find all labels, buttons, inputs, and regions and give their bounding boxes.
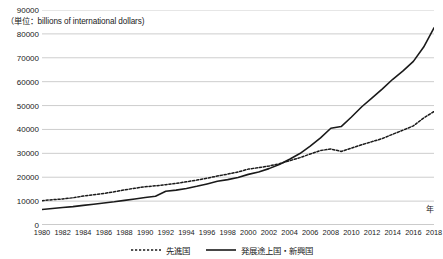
x-axis-tick-label: 1998 [219,228,235,237]
x-axis-tick-label: 2010 [343,228,359,237]
x-axis-tick-label: 1994 [178,228,194,237]
x-axis-tick-label: 1980 [34,228,50,237]
x-axis-tick-label: 2002 [261,228,277,237]
x-axis-tick-label: 1992 [158,228,174,237]
legend-item-advanced: 先進国 [131,244,190,256]
chart-container: （単位：billions of international dollars) 0… [0,0,443,259]
legend-swatch-solid [206,247,236,253]
legend-label-emerging: 発展途上国・新興国 [241,244,313,256]
x-axis-tick-label: 2008 [323,228,339,237]
x-axis-tick-label: 1982 [54,228,70,237]
x-axis-tick-label: 1996 [199,228,215,237]
x-axis-tick-label: 2016 [405,228,421,237]
chart-legend: 先進国 発展途上国・新興国 [0,241,443,259]
x-axis-title: 年 [426,203,434,214]
x-axis-tick-label: 1986 [96,228,112,237]
legend-item-emerging: 発展途上国・新興国 [206,244,313,256]
x-axis-tick-labels: 1980198219841986198819901992199419961998… [0,0,443,259]
legend-swatch-dotted [131,247,161,253]
x-axis-tick-label: 2012 [364,228,380,237]
x-axis-tick-label: 1988 [116,228,132,237]
legend-label-advanced: 先進国 [166,244,190,256]
x-axis-tick-label: 2014 [385,228,401,237]
x-axis-tick-label: 2018 [426,228,442,237]
x-axis-tick-label: 1984 [75,228,91,237]
x-axis-tick-label: 2000 [240,228,256,237]
x-axis-tick-label: 2004 [281,228,297,237]
x-axis-tick-label: 2006 [302,228,318,237]
x-axis-tick-label: 1990 [137,228,153,237]
